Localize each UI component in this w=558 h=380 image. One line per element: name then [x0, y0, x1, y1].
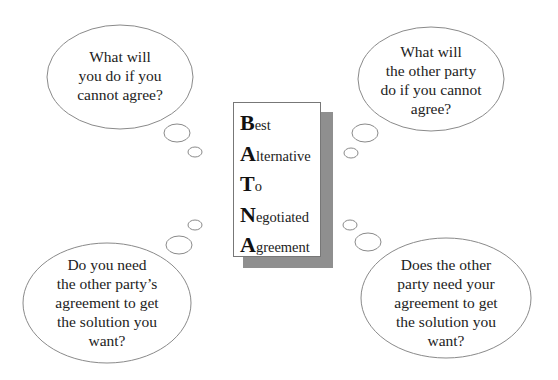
thought-bubble-small [344, 148, 358, 158]
text-line: What will [361, 42, 501, 61]
text-line: do if you cannot [361, 80, 501, 99]
acronym-word-rest: egotiated [256, 209, 309, 225]
batna-acronym-box: Best Alternative To Negotiated Agreement [233, 102, 321, 257]
text-line: party need your [376, 274, 516, 293]
text-line: want? [376, 331, 516, 350]
acronym-row-best: Best [240, 109, 320, 140]
text-line: What will [50, 47, 190, 66]
acronym-row-alternative: Alternative [240, 140, 320, 171]
acronym-initial: N [240, 202, 256, 227]
acronym-row-negotiated: Negotiated [240, 201, 320, 232]
cloud-text-top-right: What will the other party do if you cann… [361, 42, 501, 118]
acronym-initial: A [240, 141, 256, 166]
acronym-initial: T [240, 171, 255, 196]
thought-bubble-medium [352, 124, 378, 142]
thought-bubble-small [343, 220, 357, 230]
acronym-word-rest: est [255, 117, 271, 133]
acronym-word-rest: greement [256, 239, 310, 255]
text-line: agreement to get [376, 293, 516, 312]
acronym-initial: B [240, 110, 255, 135]
acronym-initial: A [240, 232, 256, 257]
text-line: want? [37, 331, 177, 350]
text-line: the other party’s [37, 274, 177, 293]
thought-bubble-medium [166, 236, 192, 254]
text-line: cannot agree? [50, 85, 190, 104]
text-line: the other party [361, 61, 501, 80]
text-line: the solution you [376, 312, 516, 331]
text-line: Do you need [37, 255, 177, 274]
thought-bubble-small [188, 147, 202, 157]
thought-bubble-small [188, 220, 202, 230]
cloud-text-bottom-right: Does the other party need your agreement… [376, 255, 516, 350]
cloud-text-top-left: What will you do if you cannot agree? [50, 47, 190, 104]
acronym-word-rest: o [255, 178, 262, 194]
text-line: agree? [361, 99, 501, 118]
thought-bubble-medium [164, 124, 190, 142]
acronym-word-rest: lternative [256, 148, 311, 164]
text-line: you do if you [50, 66, 190, 85]
text-line: Does the other [376, 255, 516, 274]
text-line: agreement to get [37, 293, 177, 312]
acronym-row-agreement: Agreement [240, 231, 320, 262]
text-line: the solution you [37, 312, 177, 331]
cloud-text-bottom-left: Do you need the other party’s agreement … [37, 255, 177, 350]
thought-bubble-medium [355, 233, 381, 251]
acronym-row-to: To [240, 170, 320, 201]
